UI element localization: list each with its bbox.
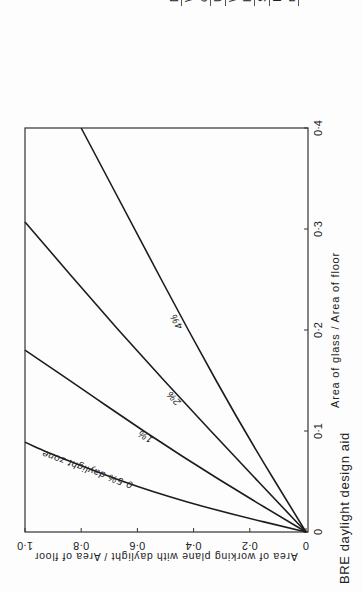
plot-frame [25, 128, 308, 532]
y-axis-label: Area of working plane with daylight / Ar… [34, 551, 297, 563]
condition-label: Windows on [182, 0, 197, 6]
conditions-row: height(metres [240, 0, 255, 6]
y-tick-label: 0 [303, 540, 309, 552]
x-tick-label: 0·3 [312, 221, 324, 237]
x-tick-label: 0 [312, 529, 324, 535]
conditions-row: one wall [196, 0, 211, 6]
y-tick-label: 0·2 [242, 540, 258, 552]
figure-page: 00·10·20·30·400·20·40·60·81·0 0·5% dayli… [0, 0, 363, 592]
curve-4- [81, 128, 306, 532]
conditions-row: Windows on [182, 0, 197, 6]
curve-label: 4% [168, 312, 185, 331]
condition-label: Daylight [167, 0, 182, 6]
y-tick-label: 0·8 [73, 540, 89, 552]
y-tick-label: 0·6 [129, 540, 145, 552]
condition-label: Unobstructed [211, 0, 226, 6]
condition-label: Window [226, 0, 241, 6]
x-tick-label: 0·1 [312, 423, 324, 439]
curve-1- [25, 350, 306, 532]
curve-label: 1% [136, 428, 155, 446]
condition-label: height [240, 0, 255, 6]
x-tick-label: 0·4 [312, 120, 324, 136]
condition-label: reflectance [284, 0, 299, 6]
conditions-row: reflectance0·4 [284, 0, 299, 6]
curve-2- [25, 222, 306, 532]
curve-label: 2% [164, 389, 183, 409]
curves [25, 128, 306, 532]
conditions-row: Internal wall [270, 0, 285, 6]
curve-label: 0·5% daylight zone [40, 448, 134, 491]
condition-label: Single clear glass [255, 0, 270, 6]
x-axis-label: Area of glass / Area of floor [329, 252, 341, 408]
conditions-row: DaylightD [167, 0, 182, 6]
conditions-table: DaylightDWindows onone wallUnobstructedW… [167, 0, 299, 6]
conditions-row: Single clear glass [255, 0, 270, 6]
y-tick-label: 1·0 [17, 540, 33, 552]
figure-caption: BRE daylight design aid [337, 432, 352, 584]
curve-labels: 0·5% daylight zone1%2%4% [40, 312, 185, 491]
conditions-row: Unobstructed [211, 0, 226, 6]
y-tick-label: 0·4 [186, 540, 202, 552]
condition-label: Internal wall [270, 0, 285, 6]
condition-label: one wall [196, 0, 211, 6]
conditions-row: Window1·8 [226, 0, 241, 6]
x-tick-label: 0·2 [312, 322, 324, 338]
daylight-chart: 00·10·20·30·400·20·40·60·81·0 0·5% dayli… [0, 0, 363, 592]
